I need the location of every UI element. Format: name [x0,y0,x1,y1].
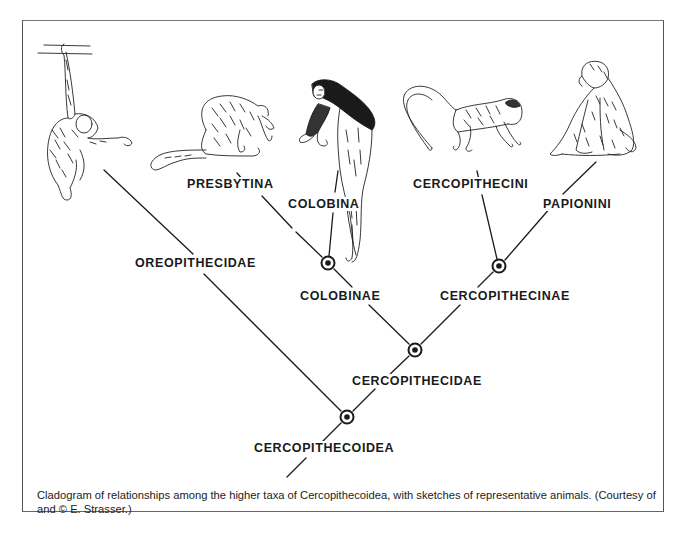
label-oreopithecidae: OREOPITHECIDAE [134,256,257,270]
node-cercopithecoidea [341,411,354,424]
walking-guenon-sketch [403,86,522,151]
branch-presbytina-lower [296,232,322,257]
label-cercopithecoidea: CERCOPITHECOIDEA [253,441,395,455]
branch-papionini-upper [563,162,596,194]
colobus-monkey-sketch [299,80,374,262]
branch-cercopithecinae-lower [421,305,460,344]
label-cercopithecini: CERCOPITHECINI [412,177,529,191]
branch-oreopithecidae-upper [104,170,193,254]
branch-colobina-upper [335,171,338,192]
hanging-ape-sketch [38,44,132,200]
sitting-baboon-sketch [550,61,636,155]
node-colobinae [322,257,335,270]
label-cercopithecinae: CERCOPITHECINAE [439,289,571,303]
label-cercopithecidae: CERCOPITHECIDAE [351,374,483,388]
branch-colobina-lower [329,213,333,256]
cladogram [0,0,689,539]
sitting-langur-sketch [151,96,274,170]
branch-cercopithecini-lower [482,195,497,259]
label-colobina: COLOBINA [287,197,360,211]
label-colobinae: COLOBINAE [299,289,381,303]
root-branch [287,458,306,477]
branch-cercopithecidae-lower [353,389,375,411]
branch-cercopithecinae-upper [478,272,493,287]
label-presbytina: PRESBYTINA [186,177,275,191]
branch-colobinae-lower [369,305,409,344]
node-cercopithecinae [493,260,506,273]
label-papionini: PAPIONINI [542,197,612,211]
figure-caption: Cladogram of relationships among the hig… [37,488,667,516]
branch-colobinae-upper [334,269,352,287]
branch-papionini-lower [505,207,551,260]
node-cercopithecidae [409,344,422,357]
